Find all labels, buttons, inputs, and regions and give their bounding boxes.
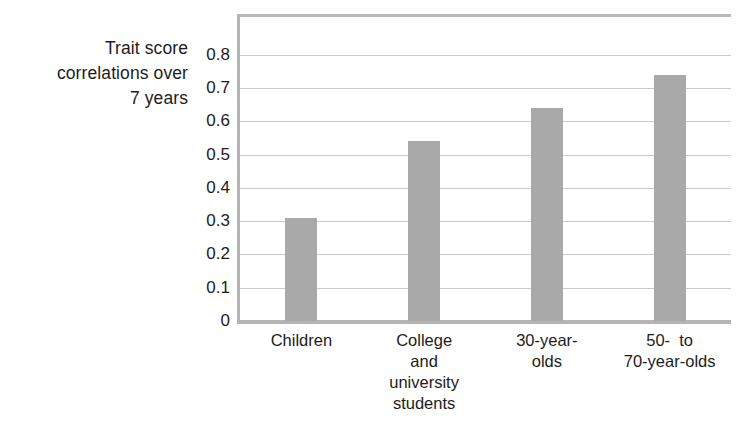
y-axis-tick-label: 0 [186,312,230,329]
gridline [240,55,731,56]
y-axis-tick-label: 0.5 [186,146,230,163]
y-axis-title-line-3: 7 years [28,86,188,111]
x-axis-category-label-line: 70-year-olds [595,351,743,372]
bar [654,75,686,321]
y-axis-tick-label: 0.2 [186,245,230,262]
y-axis-tick-label: 0.1 [186,279,230,296]
bar [531,108,563,321]
bar [285,218,317,321]
y-axis-tick-label: 0.7 [186,79,230,96]
bar-chart: Trait score correlations over 7 years 0.… [0,0,743,424]
y-axis-title: Trait score correlations over 7 years [28,36,188,111]
y-axis-tick-label: 0.6 [186,112,230,129]
y-axis-title-line-2: correlations over [28,61,188,86]
y-axis-tick-label: 0.4 [186,179,230,196]
x-axis-category-label: 50- to70-year-olds [595,330,743,372]
x-axis-category-label-line: university [349,372,499,393]
bar [408,141,440,321]
y-axis-tick-label: 0.3 [186,212,230,229]
y-axis-title-line-1: Trait score [28,36,188,61]
x-axis-category-label-line: students [349,393,499,414]
x-axis-category-label-line: 50- to [595,330,743,351]
y-axis-tick-label: 0.8 [186,46,230,63]
